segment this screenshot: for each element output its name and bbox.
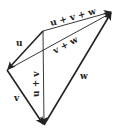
vector-diagram: u + v + w u v + w u + v w v: [0, 0, 121, 132]
vector-u-arrow: [8, 31, 43, 69]
label-v: v: [13, 93, 20, 103]
label-w: w: [79, 71, 88, 81]
label-u: u: [16, 38, 23, 48]
vector-w-arrow: [44, 13, 111, 125]
vector-u-plus-v-arrow: [43, 31, 44, 124]
label-v-plus-w: v + w: [50, 34, 79, 56]
label-u-plus-v: u + v: [31, 71, 41, 97]
